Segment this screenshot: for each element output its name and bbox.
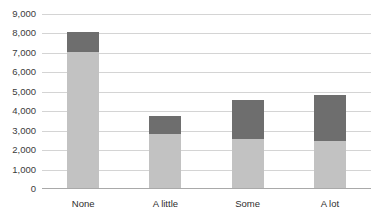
bar-some	[232, 100, 264, 188]
x-axis-category-label: Some	[235, 199, 260, 209]
x-axis-category-label: A lot	[321, 199, 340, 209]
bar-segment-upper	[67, 32, 99, 51]
bar-chart: 9,000 8,000 7,000 6,000 5,000 4,000 3,00…	[0, 0, 380, 217]
bar-segment-upper	[232, 100, 264, 140]
y-axis-tick: 9,000	[0, 9, 36, 19]
y-axis-tick: 6,000	[0, 68, 36, 78]
bar-segment-lower	[314, 141, 346, 188]
gridline	[42, 14, 371, 15]
y-axis-tick: 1,000	[0, 165, 36, 175]
bar-a-little	[149, 116, 181, 188]
x-axis-line	[42, 188, 371, 189]
bar-segment-lower	[67, 52, 99, 188]
bar-a-lot	[314, 95, 346, 188]
y-axis-tick: 0	[0, 184, 36, 194]
bar-none	[67, 32, 99, 188]
x-axis-labels: None A little Some A lot	[42, 193, 371, 217]
y-axis-tick: 4,000	[0, 106, 36, 116]
bar-segment-upper	[149, 116, 181, 134]
y-axis-tick: 5,000	[0, 87, 36, 97]
bar-segment-lower	[232, 139, 264, 188]
x-axis-category-label: A little	[153, 199, 178, 209]
y-axis-tick: 7,000	[0, 48, 36, 58]
plot-area	[42, 14, 371, 189]
y-axis-tick: 8,000	[0, 29, 36, 39]
y-axis-labels: 9,000 8,000 7,000 6,000 5,000 4,000 3,00…	[0, 0, 36, 217]
bar-segment-lower	[149, 134, 181, 188]
y-axis-tick: 2,000	[0, 145, 36, 155]
bar-segment-upper	[314, 95, 346, 142]
y-axis-tick: 3,000	[0, 126, 36, 136]
x-axis-category-label: None	[72, 199, 95, 209]
